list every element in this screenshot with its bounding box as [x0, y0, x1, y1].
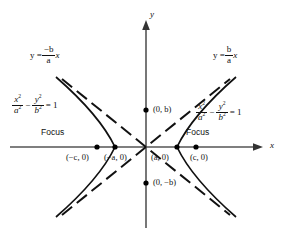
left-eq-minus: −: [23, 100, 32, 110]
asymptote-right-equation: y =bax: [213, 46, 237, 66]
right-eq-y-denominator: b2: [216, 113, 227, 122]
left-eq-x-term: x2a2: [12, 95, 23, 115]
left-eq-y-term: y2b2: [32, 95, 43, 115]
right-focus-label: (c, 0): [190, 153, 208, 162]
asymptote-right-denominator: a: [225, 56, 234, 65]
right-eq-equals: = 1: [228, 107, 244, 117]
hyperbola-right-equation: x2a2−y2b2= 1: [196, 103, 244, 123]
top-covertex-label: (0, b): [153, 105, 171, 114]
asymptote-left-lhs: y =: [30, 50, 42, 60]
right-eq-y-term: y2b2: [216, 102, 227, 122]
asymptote-right-fraction: ba: [225, 45, 234, 65]
left-eq-equals: = 1: [44, 100, 60, 110]
asymptote-right-variable: x: [233, 50, 237, 60]
bottom-covertex-label: (0, −b): [153, 178, 176, 187]
left-vertex-label: (−a, 0): [104, 153, 127, 162]
x-axis: [10, 143, 263, 151]
right-eq-x-term: x2a2: [196, 102, 207, 122]
asymptote-right-numerator: b: [225, 45, 234, 55]
diagram-canvas: [0, 0, 288, 247]
bottom-covertex-point: [143, 180, 148, 185]
asymptote-left-denominator: a: [42, 56, 56, 65]
right-focus-caption: Focus: [186, 128, 209, 137]
right-eq-x-denominator: a2: [196, 113, 207, 122]
left-focus-caption: Focus: [41, 128, 64, 137]
asymptote-left-equation: y =−bax: [30, 46, 59, 66]
left-vertex-point: [112, 144, 117, 149]
y-axis-label: y: [150, 10, 154, 19]
hyperbola-diagram: y x y =−bax y =bax x2a2−y2b2= 1 x2a2−y2b…: [0, 0, 288, 247]
y-axis: [142, 20, 150, 228]
right-focus-point: [193, 144, 198, 149]
asymptote-left-numerator: −b: [42, 45, 56, 55]
left-eq-x-denominator: a2: [12, 106, 23, 115]
left-focus-label: (−c, 0): [66, 153, 89, 162]
asymptote-left-variable: x: [55, 50, 59, 60]
right-vertex-point: [174, 144, 179, 149]
asymptote-left-fraction: −ba: [42, 45, 56, 65]
right-eq-minus: −: [207, 107, 216, 117]
hyperbola-left-equation: x2a2−y2b2= 1: [12, 96, 60, 116]
asymptote-right-lhs: y =: [213, 50, 225, 60]
right-vertex-label: (a, 0): [151, 153, 169, 162]
left-eq-y-denominator: b2: [32, 106, 43, 115]
left-focus-point: [94, 144, 99, 149]
top-covertex-point: [143, 107, 148, 112]
x-axis-label: x: [270, 141, 274, 150]
